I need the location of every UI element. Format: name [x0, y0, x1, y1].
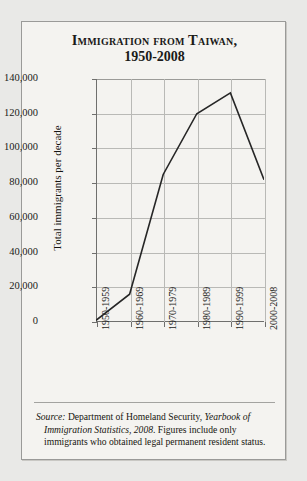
x-gridline [265, 79, 266, 322]
chart-card: Immigration from Taiwan, 1950-2008 Total… [21, 21, 286, 460]
x-axis-tick [231, 322, 232, 327]
x-axis-tick [131, 322, 132, 327]
source-text-before: Department of Homeland Security, [65, 411, 204, 422]
x-axis-tick-label: 1950-1959 [100, 287, 111, 330]
x-axis-tick [164, 322, 165, 327]
x-axis-tick [198, 322, 199, 327]
chart-title-line-1: Immigration from Taiwan, [22, 32, 287, 49]
y-axis-tick-label: 140,000 [0, 72, 38, 83]
line-series-svg [96, 79, 264, 322]
y-axis-tick-label: 0 [0, 315, 38, 326]
y-axis-tick-label: 80,000 [0, 176, 38, 187]
x-axis-tick-label: 1980-1989 [201, 287, 212, 330]
y-axis-tick-label: 40,000 [0, 246, 38, 257]
figure-panel: Immigration from Taiwan, 1950-2008 Total… [0, 0, 307, 481]
y-axis-tick-label: 20,000 [0, 280, 38, 291]
source-label: Source: [36, 411, 65, 422]
x-axis-tick-label: 1960-1969 [134, 287, 145, 330]
source-note: Source: Department of Homeland Security,… [36, 411, 282, 449]
chart-area: Total immigrants per decade 020,00040,00… [22, 70, 287, 390]
page-title: Immigration from Taiwan, 1950-2008 [22, 32, 287, 65]
y-axis-title: Total immigrants per decade [51, 93, 63, 283]
source-divider [34, 402, 275, 403]
y-axis-tick-label: 120,000 [0, 107, 38, 118]
x-axis-tick [97, 322, 98, 327]
chart-title-line-2: 1950-2008 [22, 49, 287, 65]
data-series-layer [96, 79, 264, 322]
x-axis-tick [265, 322, 266, 327]
y-axis-tick-label: 60,000 [0, 211, 38, 222]
x-axis-tick-label: 2000-2008 [268, 287, 279, 330]
x-axis-tick-label: 1970-1979 [167, 287, 178, 330]
y-axis-tick-label: 100,000 [0, 141, 38, 152]
x-axis-tick-label: 1990-1999 [234, 287, 245, 330]
